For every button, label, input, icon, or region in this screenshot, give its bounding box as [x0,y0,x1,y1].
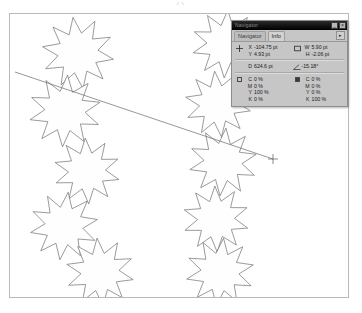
info-row-color: C 0 % M 0 % Y 100 % K 0 % [232,76,347,102]
field-right-c-value: 0 % [312,76,321,83]
field-left-m: M 0 % [244,83,290,90]
distance-cell: D 624.6 pt [232,63,290,70]
field-left-y-label: Y [244,89,254,96]
palette-titlebar[interactable]: Navigator _ × [232,21,347,30]
ten-point-star[interactable] [187,238,254,297]
field-right-m-label: M [302,83,312,90]
background-color-swatch [293,76,302,82]
field-right-c-label: C [302,76,312,83]
field-left-k-value: 0 % [254,96,263,103]
info-row-measure: D 624.6 pt -15.18° [232,63,347,70]
stray-mark [176,1,186,6]
field-left-y-value: 100 % [254,89,269,96]
field-right-c: C 0 % [302,76,348,83]
ten-point-star[interactable] [184,186,247,252]
field-right-y: Y 0 % [302,89,348,96]
palette-close-button[interactable]: × [339,22,346,29]
field-left-c-value: 0 % [254,76,263,83]
coordinates-cell: X -104.75 pt Y 4.93 pt [232,44,290,57]
field-left-k-label: K [244,96,254,103]
field-right-k: K 100 % [302,96,348,103]
field-left-c: C 0 % [244,76,290,83]
field-left-y: Y 100 % [244,89,290,96]
field-d-value: 624.6 pt [254,63,273,70]
field-d-label: D [244,63,254,70]
ten-point-star[interactable] [190,128,256,196]
tab-info[interactable]: Info [268,31,285,41]
field-right-y-value: 0 % [312,89,321,96]
field-right-m: M 0 % [302,83,348,90]
color-left-cell: C 0 % M 0 % Y 100 % K 0 % [232,76,290,102]
rectangle-marquee-icon [293,44,302,52]
info-palette-body: X -104.75 pt Y 4.93 pt [232,42,347,106]
field-h: H -2.06 pt [302,51,348,58]
palette-tab-strip[interactable]: Navigator Info ▸ [232,30,347,42]
divider-bottom [235,72,344,74]
palette-minimize-button[interactable]: _ [331,22,338,29]
field-right-k-label: K [302,96,312,103]
field-y-label: Y [244,51,254,58]
field-angle-value: -15.18° [302,63,319,70]
palette-menu-button[interactable]: ▸ [336,31,345,40]
ten-point-star[interactable] [55,138,119,204]
ten-point-star[interactable] [30,75,100,147]
field-angle: -15.18° [302,63,348,70]
field-d: D 624.6 pt [244,63,290,70]
color-right-cell: C 0 % M 0 % Y 0 % K 100 % [290,76,348,102]
field-left-m-label: M [244,83,254,90]
field-left-m-value: 0 % [254,83,263,90]
divider-top [235,59,344,61]
field-w: W 5.90 pt [302,44,348,51]
field-x-label: X [244,44,254,51]
dimensions-cell: W 5.90 pt H -2.06 pt [290,44,348,57]
field-left-c-label: C [244,76,254,83]
angle-cell: -15.18° [290,63,348,70]
field-w-value: 5.90 pt [312,44,328,51]
tab-navigator[interactable]: Navigator [234,31,266,41]
distance-icon [235,63,244,64]
measure-end-marker[interactable] [268,154,278,164]
field-y: Y 4.93 pt [244,51,290,58]
angle-icon [293,63,302,70]
palette-title: Navigator [235,22,305,29]
field-right-k-value: 100 % [312,96,327,103]
ten-point-star[interactable] [31,192,98,260]
info-palette[interactable]: Navigator _ × Navigator Info ▸ X -104.75… [231,20,348,107]
field-h-label: H [302,51,312,58]
field-w-label: W [302,44,312,51]
field-h-value: -2.06 pt [312,51,330,58]
field-right-y-label: Y [302,89,312,96]
field-x: X -104.75 pt [244,44,290,51]
info-row-coords: X -104.75 pt Y 4.93 pt [232,44,347,57]
foreground-color-swatch [235,76,244,82]
field-right-m-value: 0 % [312,83,321,90]
field-x-value: -104.75 pt [254,44,277,51]
ten-point-star[interactable] [43,17,114,88]
field-y-value: 4.93 pt [254,51,270,58]
field-left-k: K 0 % [244,96,290,103]
crosshair-icon [235,44,244,52]
